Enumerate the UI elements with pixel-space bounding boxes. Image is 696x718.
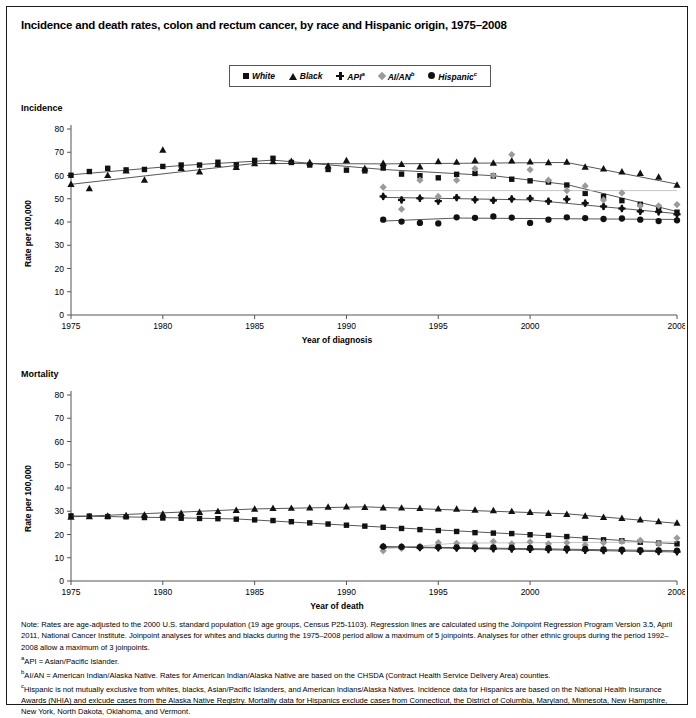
data-point bbox=[508, 151, 515, 158]
data-point bbox=[582, 536, 587, 541]
data-point bbox=[453, 177, 460, 184]
y-tick-label: 60 bbox=[55, 437, 65, 447]
notes-block: Note: Rates are age-adjusted to the 2000… bbox=[21, 619, 677, 718]
data-point bbox=[159, 146, 166, 152]
x-tick-label: 1995 bbox=[429, 587, 448, 597]
y-tick-label: 10 bbox=[55, 553, 65, 563]
footnote-a-text: API = Asian/Pacific Islander. bbox=[24, 657, 119, 666]
data-point bbox=[306, 159, 313, 165]
data-point bbox=[582, 546, 588, 552]
data-point bbox=[362, 523, 367, 528]
footnote-b: bAI/AN = American Indian/Alaska Native. … bbox=[21, 667, 677, 681]
data-point bbox=[435, 193, 442, 200]
data-point bbox=[380, 165, 385, 170]
data-point bbox=[435, 544, 441, 550]
x-tick-label: 1990 bbox=[337, 587, 356, 597]
plus-marker-icon bbox=[336, 72, 344, 80]
x-tick-label: 2008 bbox=[668, 587, 685, 597]
data-point bbox=[380, 192, 387, 200]
data-point bbox=[545, 545, 551, 551]
data-point bbox=[673, 181, 680, 187]
mortality-y-axis-label: Rate per 100,000 bbox=[23, 465, 33, 532]
legend-item-black[interactable]: Black bbox=[289, 71, 323, 81]
data-point bbox=[417, 220, 423, 226]
data-point bbox=[618, 515, 625, 521]
data-point bbox=[324, 503, 331, 509]
data-point bbox=[490, 538, 497, 545]
data-point bbox=[490, 159, 497, 165]
data-point bbox=[215, 516, 220, 521]
data-point bbox=[564, 545, 570, 551]
data-point bbox=[526, 509, 533, 515]
data-point bbox=[471, 196, 478, 204]
data-point bbox=[178, 516, 183, 521]
incidence-y-axis-label: Rate per 100,000 bbox=[23, 200, 33, 267]
data-point bbox=[509, 214, 515, 220]
mortality-panel-label: Mortality bbox=[21, 369, 59, 379]
data-point bbox=[270, 518, 275, 523]
data-point bbox=[399, 526, 404, 531]
data-point bbox=[436, 175, 441, 180]
data-point bbox=[252, 517, 257, 522]
data-point bbox=[637, 516, 644, 522]
y-tick-label: 70 bbox=[55, 147, 65, 157]
data-point bbox=[197, 516, 202, 521]
data-point bbox=[545, 159, 552, 165]
mortality-x-axis-label: Year of death bbox=[247, 601, 427, 611]
data-point bbox=[655, 173, 662, 179]
data-point bbox=[490, 507, 497, 513]
data-point bbox=[471, 506, 478, 512]
data-point bbox=[453, 194, 460, 202]
y-tick-label: 50 bbox=[55, 194, 65, 204]
data-point bbox=[582, 199, 589, 207]
footnote-a: aAPI = Asian/Pacific Islander. bbox=[21, 653, 677, 667]
data-point bbox=[564, 534, 569, 539]
data-point bbox=[618, 168, 625, 174]
data-point bbox=[86, 185, 93, 191]
data-point bbox=[289, 519, 294, 524]
x-tick-label: 1975 bbox=[62, 587, 81, 597]
x-tick-label: 1985 bbox=[245, 587, 264, 597]
data-point bbox=[436, 528, 441, 533]
data-point bbox=[546, 533, 551, 538]
y-tick-label: 50 bbox=[55, 460, 65, 470]
data-point bbox=[545, 217, 551, 223]
legend-item-hispanic[interactable]: Hispanicc bbox=[428, 71, 477, 82]
footnote-c-text: Hispanic is not mutually exclusive from … bbox=[21, 685, 667, 717]
data-point bbox=[508, 195, 515, 203]
data-point bbox=[344, 167, 349, 172]
data-point bbox=[508, 508, 515, 514]
data-point bbox=[416, 505, 423, 511]
data-point bbox=[105, 166, 110, 171]
data-point bbox=[435, 220, 441, 226]
data-point bbox=[471, 157, 478, 163]
data-point bbox=[526, 158, 533, 164]
data-point bbox=[673, 519, 680, 525]
data-point bbox=[600, 165, 607, 171]
x-tick-label: 2000 bbox=[521, 321, 540, 331]
data-point bbox=[234, 516, 239, 521]
legend-item-ai-an[interactable]: AI/ANb bbox=[379, 71, 415, 82]
data-point bbox=[509, 545, 515, 551]
data-point bbox=[491, 530, 496, 535]
data-point bbox=[417, 527, 422, 532]
data-point bbox=[197, 162, 202, 167]
legend-item-white[interactable]: White bbox=[243, 71, 275, 81]
series-hispanic bbox=[380, 213, 680, 226]
data-point bbox=[527, 545, 533, 551]
legend-item-api[interactable]: APIa bbox=[336, 71, 365, 82]
data-point bbox=[619, 198, 624, 203]
data-point bbox=[563, 539, 570, 546]
data-point bbox=[582, 215, 588, 221]
x-tick-label: 1980 bbox=[153, 321, 172, 331]
footnote-c: cHispanic is not mutually exclusive from… bbox=[21, 681, 677, 718]
data-point bbox=[637, 170, 644, 176]
data-point bbox=[142, 167, 147, 172]
footnote-b-text: AI/AN = American Indian/Alaska Native. R… bbox=[24, 671, 550, 680]
incidence-panel-label: Incidence bbox=[21, 103, 63, 113]
data-point bbox=[380, 217, 386, 223]
legend-superscript: c bbox=[474, 71, 477, 77]
incidence-chart: 0102030405060708019751980198519901995200… bbox=[37, 115, 685, 353]
data-point bbox=[564, 182, 569, 187]
data-point bbox=[655, 218, 661, 224]
